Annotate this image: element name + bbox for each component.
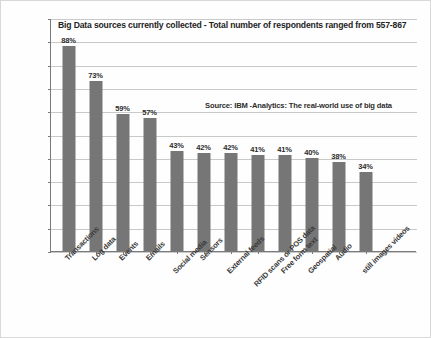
bar-slot: 88%: [55, 18, 82, 251]
bar-slot: 43%: [163, 18, 190, 251]
bar[interactable]: [62, 46, 75, 251]
bar[interactable]: [116, 114, 129, 251]
bar[interactable]: [143, 118, 156, 251]
bar-value-label: 34%: [358, 162, 372, 171]
bar-value-label: 42%: [196, 143, 210, 152]
bar-slot: 57%: [136, 18, 163, 251]
bar-slot: 59%: [109, 18, 136, 251]
bar-value-label: 59%: [115, 104, 129, 113]
chart-container: Big Data sources currently collected - T…: [0, 0, 431, 338]
bar-slot: 42%: [190, 18, 217, 251]
bar[interactable]: [170, 151, 183, 251]
source-annotation: Source: IBM -Analytics: The real-world u…: [205, 101, 392, 110]
bar-value-label: 88%: [61, 36, 75, 45]
bar-value-label: 43%: [169, 141, 183, 150]
bar[interactable]: [224, 153, 237, 251]
bar-series: 88%73%59%57%43%42%42%41%41%40%38%34%: [51, 18, 417, 251]
bar-slot: 42%: [217, 18, 244, 251]
bar-value-label: 38%: [331, 152, 345, 161]
y-axis-tick-mark: [48, 252, 51, 253]
bar[interactable]: [278, 155, 291, 251]
bar-value-label: 41%: [277, 145, 291, 154]
bar-slot: 40%: [298, 18, 325, 251]
bar-slot: 41%: [244, 18, 271, 251]
bar[interactable]: [359, 172, 372, 251]
bar-value-label: 57%: [142, 108, 156, 117]
bar-value-label: 41%: [250, 145, 264, 154]
bar-value-label: 40%: [304, 148, 318, 157]
x-axis-labels: TransactionsLog dataEventsEmailsSocial m…: [50, 254, 416, 338]
bar[interactable]: [332, 162, 345, 251]
bar-value-label: 42%: [223, 143, 237, 152]
bar-value-label: 73%: [88, 71, 102, 80]
plot-area: 100%90%80%70%60%50%40%30%20%10%0% 88%73%…: [50, 19, 416, 252]
bar[interactable]: [197, 153, 210, 251]
bar-slot: 34%: [352, 18, 379, 251]
bar-slot: 41%: [271, 18, 298, 251]
bar-slot: 73%: [82, 18, 109, 251]
bar-slot: 38%: [325, 18, 352, 251]
